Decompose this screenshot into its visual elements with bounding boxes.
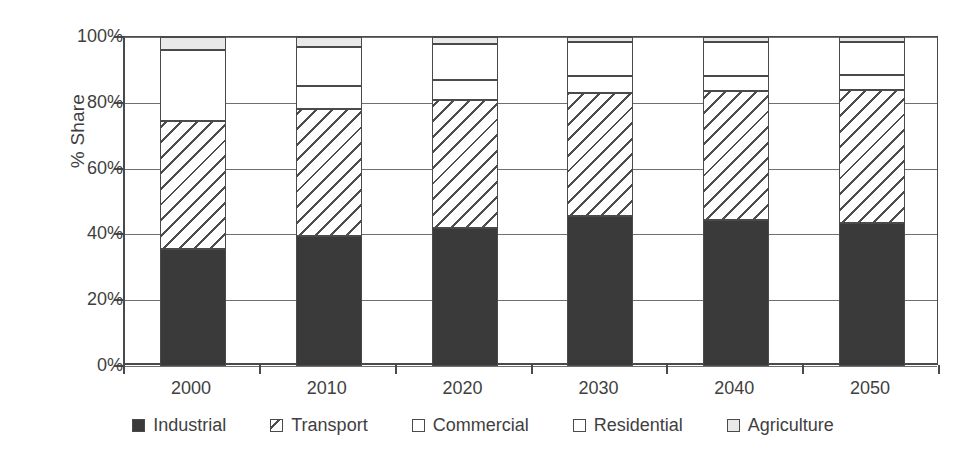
x-tick-mark <box>123 365 125 374</box>
legend-swatch-industrial-icon <box>132 419 145 432</box>
legend-label: Agriculture <box>748 415 834 436</box>
legend-item-transport[interactable]: Transport <box>270 415 367 436</box>
chart-legend: IndustrialTransportCommercialResidential… <box>0 415 966 436</box>
legend-item-agriculture[interactable]: Agriculture <box>727 415 834 436</box>
x-tick-mark <box>531 365 533 374</box>
x-tick-mark <box>938 365 940 374</box>
x-axis-ticks: 200020102020203020402050 <box>0 0 966 465</box>
x-tick-mark <box>666 365 668 374</box>
legend-swatch-commercial-icon <box>412 419 425 432</box>
legend-label: Commercial <box>433 415 529 436</box>
x-tick-mark <box>395 365 397 374</box>
x-tick-label: 2000 <box>121 378 261 399</box>
stacked-bar-chart: % Share 0%20%40%60%80%100% 2000201020202… <box>0 0 966 465</box>
legend-label: Transport <box>291 415 367 436</box>
legend-swatch-residential-icon <box>573 419 586 432</box>
legend-item-commercial[interactable]: Commercial <box>412 415 529 436</box>
legend-item-industrial[interactable]: Industrial <box>132 415 226 436</box>
legend-label: Industrial <box>153 415 226 436</box>
x-tick-label: 2020 <box>393 378 533 399</box>
legend-label: Residential <box>594 415 683 436</box>
legend-swatch-transport-icon <box>270 419 283 432</box>
x-tick-label: 2030 <box>528 378 668 399</box>
x-tick-label: 2010 <box>257 378 397 399</box>
x-tick-mark <box>802 365 804 374</box>
x-tick-label: 2050 <box>800 378 940 399</box>
legend-swatch-agriculture-icon <box>727 419 740 432</box>
x-tick-label: 2040 <box>664 378 804 399</box>
x-tick-mark <box>259 365 261 374</box>
legend-item-residential[interactable]: Residential <box>573 415 683 436</box>
